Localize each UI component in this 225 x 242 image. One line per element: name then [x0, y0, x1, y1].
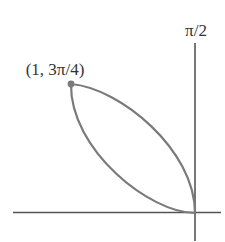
- petal-lower-arc: [71, 84, 195, 213]
- axis-label-pi-over-2: π/2: [185, 21, 207, 40]
- point-label: (1, 3π/4): [26, 60, 85, 79]
- petal-upper-arc: [71, 84, 195, 213]
- polar-graph: π/2 (1, 3π/4): [0, 0, 225, 242]
- labeled-point-marker: [68, 81, 75, 88]
